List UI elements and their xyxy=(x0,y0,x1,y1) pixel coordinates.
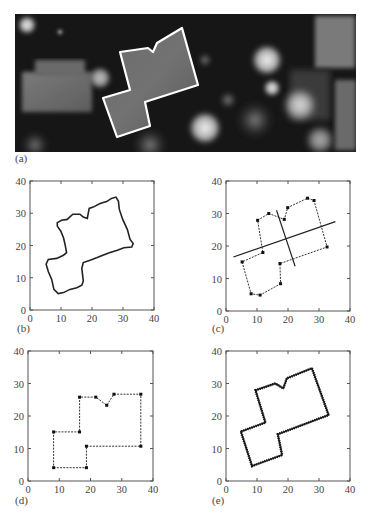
axis-line xyxy=(233,222,335,257)
x-tick-label: 20 xyxy=(283,484,294,495)
vertex-marker xyxy=(261,251,264,254)
x-tick-label: 10 xyxy=(54,484,65,495)
vertex-marker xyxy=(85,466,88,469)
vertex-marker xyxy=(259,294,262,297)
vertex-marker xyxy=(78,396,81,399)
x-tick-label: 20 xyxy=(85,484,96,495)
y-tick-label: 40 xyxy=(212,346,223,357)
vertex-marker xyxy=(250,292,253,295)
y-tick-label: 0 xyxy=(21,305,26,316)
vertex-marker xyxy=(283,218,286,221)
vertex-marker xyxy=(313,199,316,202)
panel-label-e: (e) xyxy=(212,494,224,506)
y-tick-label: 30 xyxy=(14,379,25,390)
aerial-image-canvas xyxy=(15,14,356,152)
x-tick-label: 10 xyxy=(56,313,67,324)
y-tick-label: 20 xyxy=(14,411,25,422)
y-tick-label: 20 xyxy=(212,411,223,422)
panel-label-c: (c) xyxy=(212,322,224,334)
dotted-series xyxy=(241,368,329,466)
x-tick-label: 40 xyxy=(149,313,160,324)
dashed-series xyxy=(242,198,327,295)
y-tick-label: 40 xyxy=(14,346,25,357)
y-tick-label: 40 xyxy=(16,176,27,187)
x-tick-label: 20 xyxy=(283,314,294,325)
vertex-marker xyxy=(286,206,289,209)
y-tick-label: 0 xyxy=(217,476,222,487)
vertex-marker xyxy=(306,197,309,200)
vertex-marker xyxy=(267,212,270,215)
x-tick-label: 30 xyxy=(118,313,129,324)
y-tick-label: 30 xyxy=(212,379,223,390)
axes-box xyxy=(28,351,153,481)
x-tick-label: 10 xyxy=(252,314,263,325)
y-tick-label: 10 xyxy=(212,274,223,285)
x-tick-label: 10 xyxy=(252,484,263,495)
vertex-marker xyxy=(78,430,81,433)
x-tick-label: 40 xyxy=(345,484,356,495)
vertex-marker xyxy=(52,466,55,469)
vertex-marker xyxy=(52,430,55,433)
panel-label-b: (b) xyxy=(17,322,30,334)
y-tick-label: 20 xyxy=(16,241,27,252)
axes-box xyxy=(30,181,154,310)
y-tick-label: 10 xyxy=(14,444,25,455)
y-tick-label: 40 xyxy=(212,176,223,187)
vertex-marker xyxy=(105,404,108,407)
panel-label-d: (d) xyxy=(15,494,28,506)
y-tick-label: 0 xyxy=(217,306,222,317)
axis-line xyxy=(277,210,296,266)
y-tick-label: 10 xyxy=(212,444,223,455)
x-tick-label: 40 xyxy=(345,314,356,325)
y-tick-label: 20 xyxy=(212,241,223,252)
y-tick-label: 30 xyxy=(16,208,27,219)
panel-label-a: (a) xyxy=(15,152,27,164)
vertex-marker xyxy=(85,445,88,448)
vertex-marker xyxy=(94,396,97,399)
y-tick-label: 10 xyxy=(16,273,27,284)
chart-b-raw-boundary: 010203040010203040 xyxy=(0,170,185,345)
x-tick-label: 20 xyxy=(87,313,98,324)
outline-series xyxy=(46,197,133,294)
vertex-marker xyxy=(278,262,281,265)
vertex-marker xyxy=(279,282,282,285)
vertex-marker xyxy=(139,445,142,448)
x-tick-label: 40 xyxy=(148,484,159,495)
y-tick-label: 30 xyxy=(212,209,223,220)
x-tick-label: 30 xyxy=(117,484,128,495)
vertex-marker xyxy=(241,260,244,263)
vertex-marker xyxy=(256,219,259,222)
vertex-marker xyxy=(139,393,142,396)
vertex-marker xyxy=(112,393,115,396)
axes-box xyxy=(226,351,350,481)
chart-c-principal-axes: 010203040010203040 xyxy=(185,170,369,345)
x-tick-label: 30 xyxy=(314,314,325,325)
aerial-elevation-image xyxy=(15,14,356,152)
y-tick-label: 0 xyxy=(19,476,24,487)
vertex-marker xyxy=(326,245,329,248)
x-tick-label: 30 xyxy=(314,484,325,495)
dashed-series xyxy=(54,394,141,468)
